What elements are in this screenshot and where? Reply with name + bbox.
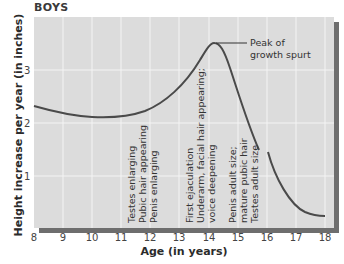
peak-label-line2: growth spurt [250,49,311,60]
ann-penis-adult-size: Penis adult size; [227,146,238,223]
x-tick-16: 16 [261,232,274,243]
x-tick-12: 12 [144,232,157,243]
y-tick-2: 2 [24,118,30,129]
x-tick-8: 8 [31,232,37,243]
ann-pubic-hair-appearing: Pubic hair appearing [137,125,148,223]
x-tick-17: 17 [290,232,303,243]
y-tick-3: 3 [24,65,30,76]
ann-first-ejaculation: First ejaculation [184,148,195,223]
x-tick-14: 14 [203,232,216,243]
chart-svg: 3 2 1 8 9 10 11 12 13 14 15 16 17 18 Pea… [0,0,344,264]
x-tick-15: 15 [232,232,245,243]
ann-penis-enlarging: Penis enlarging [148,150,159,223]
peak-label-line1: Peak of [250,37,285,48]
x-tick-18: 18 [319,232,332,243]
x-tick-9: 9 [60,232,66,243]
ann-testes-adult-size: Testes adult size [249,145,260,224]
ann-voice-deepening: voice deepening [206,145,217,223]
x-tick-13: 13 [173,232,186,243]
ann-testes-enlarging: Testes enlarging [126,146,137,224]
ann-mature-pubic-hair: mature pubic hair [238,138,249,223]
y-tick-1: 1 [24,171,30,182]
x-tick-10: 10 [86,232,99,243]
ann-underarm-facial-hair: Underarm, facial hair appearing; [195,68,206,223]
x-tick-11: 11 [115,232,128,243]
